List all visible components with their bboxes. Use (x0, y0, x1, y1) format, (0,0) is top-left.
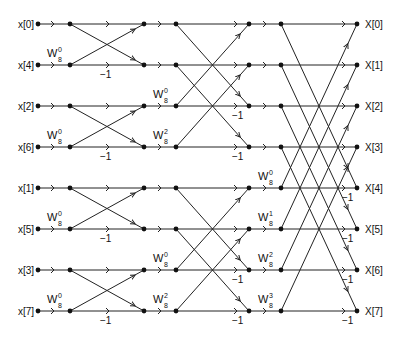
twiddle-factor-stage3: W08 (258, 169, 273, 186)
node-dot (36, 186, 41, 191)
output-label: X[7] (365, 306, 383, 317)
node-dot (68, 22, 73, 27)
svg-text:W: W (47, 293, 58, 305)
input-label: x[3] (18, 265, 34, 276)
input-label: x[1] (18, 183, 34, 194)
node-dot (68, 104, 73, 109)
svg-text:8: 8 (164, 261, 168, 268)
output-label: X[0] (365, 19, 383, 30)
svg-text:2: 2 (269, 251, 273, 258)
node-dot (174, 145, 179, 150)
output-label: X[6] (365, 265, 383, 276)
output-label: X[3] (365, 142, 383, 153)
minus-one-label-stage1: −1 (100, 69, 112, 80)
input-label: x[2] (18, 101, 34, 112)
minus-one-label-stage2: −1 (232, 315, 244, 326)
input-label: x[6] (18, 142, 34, 153)
twiddle-factor-stage2: W08 (153, 251, 168, 268)
node-dot (174, 22, 179, 27)
node-dot (142, 22, 147, 27)
minus-one-label-stage3: −1 (342, 233, 354, 244)
node-dot (247, 227, 252, 232)
node-dot (68, 227, 73, 232)
node-dot (142, 227, 147, 232)
twiddle-factor-stage3: W18 (258, 210, 273, 227)
svg-text:0: 0 (164, 87, 168, 94)
minus-one-label-stage2: −1 (232, 110, 244, 121)
node-dot (142, 145, 147, 150)
minus-one-label-stage3: −1 (342, 192, 354, 203)
output-label: X[2] (365, 101, 383, 112)
node-dot (247, 186, 252, 191)
node-dot (142, 104, 147, 109)
svg-text:8: 8 (58, 56, 62, 63)
svg-text:8: 8 (58, 220, 62, 227)
node-dot (355, 63, 360, 68)
twiddle-factor-stage2: W08 (153, 87, 168, 104)
node-dot (355, 22, 360, 27)
node-dot (279, 104, 284, 109)
node-dot (68, 145, 73, 150)
node-dot (36, 22, 41, 27)
svg-text:3: 3 (269, 292, 273, 299)
node-dot (174, 63, 179, 68)
svg-text:0: 0 (164, 251, 168, 258)
svg-text:8: 8 (164, 138, 168, 145)
node-dot (355, 186, 360, 191)
svg-text:W: W (153, 293, 164, 305)
node-dot (36, 227, 41, 232)
twiddle-factor-stage3: W38 (258, 292, 273, 309)
minus-one-label-stage2: −1 (232, 274, 244, 285)
twiddle-factor-stage2: W28 (153, 128, 168, 145)
svg-text:8: 8 (269, 261, 273, 268)
node-dot (36, 63, 41, 68)
svg-text:8: 8 (269, 179, 273, 186)
svg-text:8: 8 (164, 302, 168, 309)
output-label: X[4] (365, 183, 383, 194)
node-dot (279, 63, 284, 68)
minus-one-label-stage2: −1 (232, 151, 244, 162)
node-dot (355, 227, 360, 232)
node-dot (68, 186, 73, 191)
svg-text:0: 0 (58, 210, 62, 217)
node-dot (174, 227, 179, 232)
svg-text:W: W (258, 252, 269, 264)
node-dot (68, 63, 73, 68)
twiddle-factor-stage2: W28 (153, 292, 168, 309)
svg-text:0: 0 (269, 169, 273, 176)
fft-butterfly-diagram: x[0]x[4]x[2]x[6]x[1]x[5]x[3]x[7]X[0]X[1]… (0, 0, 399, 339)
node-dot (279, 268, 284, 273)
node-dot (142, 63, 147, 68)
svg-text:8: 8 (269, 220, 273, 227)
svg-text:W: W (153, 129, 164, 141)
minus-one-label-stage1: −1 (100, 151, 112, 162)
input-label: x[5] (18, 224, 34, 235)
svg-text:8: 8 (58, 302, 62, 309)
minus-one-label-stage1: −1 (100, 315, 112, 326)
node-dot (279, 22, 284, 27)
input-label: x[7] (18, 306, 34, 317)
svg-text:2: 2 (164, 292, 168, 299)
output-label: X[1] (365, 60, 383, 71)
node-dot (36, 309, 41, 314)
svg-text:W: W (47, 129, 58, 141)
node-dot (279, 145, 284, 150)
node-dot (247, 22, 252, 27)
node-dot (142, 186, 147, 191)
node-dot (279, 227, 284, 232)
node-dot (68, 309, 73, 314)
output-label: X[5] (365, 224, 383, 235)
svg-text:W: W (258, 211, 269, 223)
node-dot (142, 268, 147, 273)
node-dot (36, 268, 41, 273)
svg-text:8: 8 (269, 302, 273, 309)
node-dot (174, 268, 179, 273)
svg-text:0: 0 (58, 292, 62, 299)
node-dot (36, 145, 41, 150)
node-dot (68, 268, 73, 273)
twiddle-factor-stage1: W08 (47, 292, 62, 309)
node-dot (142, 309, 147, 314)
node-dot (355, 268, 360, 273)
twiddle-factor-stage3: W28 (258, 251, 273, 268)
svg-text:W: W (153, 88, 164, 100)
